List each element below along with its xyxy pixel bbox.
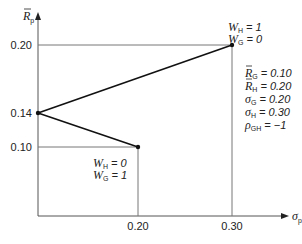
param-sg: σG = 0.20 (245, 92, 291, 106)
y-tick-0.10: 0.10 (11, 141, 32, 153)
param-rh: RH = 0.20 (244, 79, 292, 93)
point-min-variance (36, 111, 40, 115)
x-tick-0.30: 0.30 (221, 220, 242, 232)
x-axis-label: σp (292, 209, 302, 225)
y-axis-arrow-icon (35, 12, 41, 20)
y-tick-0.14: 0.14 (11, 107, 32, 119)
x-axis-arrow-icon (281, 213, 289, 219)
param-sh: σH = 0.30 (245, 105, 291, 119)
point-G-label-wg: WG = 1 (93, 168, 127, 182)
y-axis-label: Rp (22, 9, 34, 25)
point-G (136, 145, 140, 149)
frontier-upper (38, 45, 232, 113)
param-rg: RG = 0.10 (244, 66, 293, 80)
param-rho: ρGH = −1 (244, 118, 286, 132)
frontier-lower (38, 113, 138, 147)
y-tick-0.20: 0.20 (11, 39, 32, 51)
portfolio-chart: 0.20 0.14 0.10 0.20 0.30 Rp σp WH = 1 WG… (0, 0, 302, 244)
x-tick-0.20: 0.20 (127, 220, 148, 232)
point-H-label-wg: WG = 0 (228, 32, 263, 46)
